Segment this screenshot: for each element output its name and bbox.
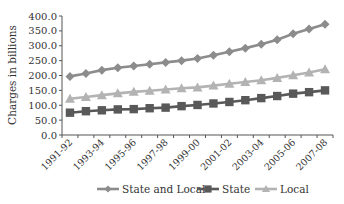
y-tick-label: 200.0 xyxy=(28,70,57,81)
y-tick-label: 100.0 xyxy=(28,100,57,111)
series-state-and-local xyxy=(65,20,329,81)
x-tick-label: 1997-98 xyxy=(134,137,170,173)
y-tick-label: 350.0 xyxy=(28,25,57,36)
x-tick-label: 2003-04 xyxy=(230,137,266,173)
chart-svg: 0.050.0100.0150.0200.0250.0300.0350.0400… xyxy=(0,0,344,204)
y-axis: 0.050.0100.0150.0200.0250.0300.0350.0400… xyxy=(28,11,62,141)
x-tick-label: 1999-00 xyxy=(166,137,202,173)
legend-label: State and Local xyxy=(122,183,206,195)
square-marker-icon xyxy=(204,185,211,192)
x-axis: 1991-921993-941995-961997-981999-002001-… xyxy=(39,135,333,172)
y-tick-label: 250.0 xyxy=(28,55,57,66)
x-tick-label: 1995-96 xyxy=(102,137,138,173)
x-tick-label: 1991-92 xyxy=(39,137,75,173)
x-tick-label: 1993-94 xyxy=(71,137,107,173)
y-tick-label: 400.0 xyxy=(28,11,57,22)
x-tick-label: 2007-08 xyxy=(294,137,330,173)
x-tick-label: 2005-06 xyxy=(262,137,298,173)
legend-label: Local xyxy=(280,183,309,195)
y-axis-label: Charges in billions xyxy=(6,25,18,125)
y-tick-label: 0.0 xyxy=(41,130,57,141)
diamond-marker-icon xyxy=(104,185,111,192)
line-chart: 0.050.0100.0150.0200.0250.0300.0350.0400… xyxy=(0,0,344,204)
x-tick-label: 2001-02 xyxy=(198,137,234,173)
legend-item: Local xyxy=(255,183,309,195)
y-tick-label: 50.0 xyxy=(35,115,57,126)
legend-item: State and Local xyxy=(97,183,206,195)
chart-series xyxy=(65,20,330,117)
y-tick-label: 150.0 xyxy=(28,85,57,96)
y-tick-label: 300.0 xyxy=(28,40,57,51)
legend-label: State xyxy=(222,183,250,195)
legend: State and LocalStateLocal xyxy=(97,183,309,195)
